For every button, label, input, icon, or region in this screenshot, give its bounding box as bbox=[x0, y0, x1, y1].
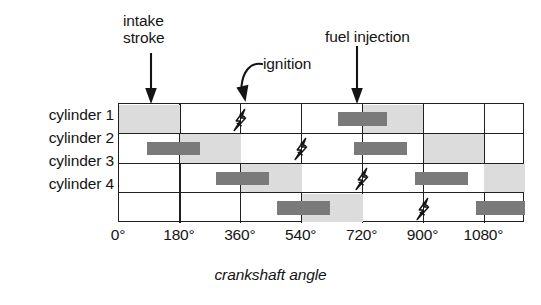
ignition-marker bbox=[293, 137, 313, 160]
x-tick-360: 360° bbox=[224, 226, 255, 244]
x-tick-540: 540° bbox=[285, 226, 316, 244]
arrow-ignition bbox=[236, 64, 262, 102]
fuel-injection-bar bbox=[338, 112, 387, 126]
intake-stroke-span bbox=[484, 164, 525, 192]
intake-stroke-span bbox=[119, 105, 180, 133]
cylinder-label-column: cylinder 1 cylinder 2 cylinder 3 cylinde… bbox=[0, 0, 114, 305]
row-label-cylinder-2: cylinder 2 bbox=[4, 130, 114, 146]
x-tick-0: 0° bbox=[111, 226, 125, 244]
annotation-ignition: ignition bbox=[263, 55, 311, 72]
ignition-marker bbox=[232, 108, 252, 131]
fuel-injection-bar bbox=[476, 201, 525, 215]
x-axis-caption: crankshaft angle bbox=[0, 266, 541, 284]
ignition-marker bbox=[354, 167, 374, 190]
timing-grid bbox=[118, 103, 524, 222]
row-label-cylinder-3: cylinder 3 bbox=[4, 153, 114, 169]
arrow-intake-stroke bbox=[145, 53, 157, 104]
row-label-cylinder-1: cylinder 1 bbox=[4, 107, 114, 123]
intake-stroke-span bbox=[424, 134, 485, 162]
x-tick-180: 180° bbox=[163, 226, 194, 244]
ignition-marker bbox=[415, 197, 435, 220]
row-label-cylinder-4: cylinder 4 bbox=[4, 176, 114, 192]
annotation-intake-stroke: intake stroke bbox=[123, 12, 165, 46]
arrow-fuel-injection bbox=[351, 46, 363, 104]
fuel-injection-bar bbox=[216, 172, 269, 186]
engine-timing-diagram: intake stroke ignition fuel injection cy… bbox=[0, 0, 541, 305]
fuel-injection-bar bbox=[147, 142, 200, 156]
annotation-fuel-injection: fuel injection bbox=[325, 28, 410, 45]
fuel-injection-bar bbox=[277, 201, 330, 215]
x-tick-720: 720° bbox=[346, 226, 377, 244]
x-tick-1080: 1080° bbox=[464, 226, 504, 244]
fuel-injection-bar bbox=[415, 172, 468, 186]
fuel-injection-bar bbox=[354, 142, 407, 156]
x-tick-900: 900° bbox=[407, 226, 438, 244]
